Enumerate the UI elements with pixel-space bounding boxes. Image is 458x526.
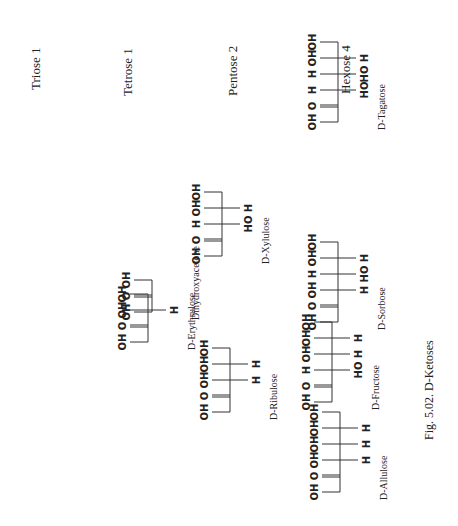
svg-text:OH: OH bbox=[307, 114, 318, 131]
svg-text:H: H bbox=[251, 376, 262, 384]
structure-erythrulose: OHOOHHOHD-Erythrulose bbox=[118, 282, 188, 350]
svg-text:OH: OH bbox=[307, 34, 318, 51]
structure-drawing: OHOOHHOH bbox=[118, 282, 188, 350]
svg-text:H: H bbox=[169, 306, 180, 314]
svg-text:HO: HO bbox=[359, 66, 370, 83]
structure-drawing: OHOOHHOHHOHHOH bbox=[310, 400, 380, 500]
structure-name: D-Xylulose bbox=[260, 217, 271, 264]
structure-drawing: OHOHHOHHOOHHOH bbox=[308, 30, 378, 130]
svg-text:H: H bbox=[251, 360, 262, 368]
svg-text:H: H bbox=[301, 366, 312, 374]
svg-text:OH: OH bbox=[307, 234, 318, 251]
svg-text:O: O bbox=[307, 302, 318, 311]
svg-text:H: H bbox=[361, 456, 372, 464]
svg-text:OH: OH bbox=[191, 200, 202, 217]
svg-text:OH: OH bbox=[199, 404, 210, 421]
svg-text:OH: OH bbox=[309, 484, 320, 501]
svg-text:H: H bbox=[361, 440, 372, 448]
svg-text:OH: OH bbox=[301, 330, 312, 347]
svg-text:H: H bbox=[359, 54, 370, 62]
svg-text:H: H bbox=[359, 254, 370, 262]
heading-pentose: Pentose 2 bbox=[225, 46, 241, 96]
svg-text:O: O bbox=[301, 382, 312, 391]
svg-text:O: O bbox=[191, 236, 202, 245]
svg-text:H: H bbox=[191, 220, 202, 228]
svg-text:HO: HO bbox=[359, 266, 370, 283]
svg-text:OH: OH bbox=[307, 50, 318, 67]
structure-xylulose: OHOHHOOHHOHD-Xylulose bbox=[192, 180, 262, 264]
svg-text:OH: OH bbox=[117, 334, 128, 351]
svg-text:OH: OH bbox=[307, 282, 318, 299]
svg-text:H: H bbox=[353, 334, 364, 342]
structure-name: D-Fructose bbox=[370, 365, 381, 410]
svg-text:O: O bbox=[309, 472, 320, 481]
svg-text:H: H bbox=[307, 86, 318, 94]
svg-text:O: O bbox=[117, 322, 128, 331]
structure-name: D-Sorbose bbox=[376, 287, 387, 330]
svg-text:OH: OH bbox=[191, 184, 202, 201]
svg-text:H: H bbox=[361, 424, 372, 432]
svg-text:OH: OH bbox=[191, 248, 202, 265]
structure-sorbose: OHOOHHHHOOHHOHD-Sorbose bbox=[308, 230, 378, 330]
svg-text:HO: HO bbox=[243, 216, 254, 233]
heading-tetrose: Tetrose 1 bbox=[120, 48, 136, 96]
svg-text:OH: OH bbox=[199, 356, 210, 373]
svg-text:O: O bbox=[199, 392, 210, 401]
svg-text:OH: OH bbox=[307, 314, 318, 331]
svg-text:OH: OH bbox=[117, 286, 128, 303]
structure-name: D-Tagatose bbox=[376, 84, 387, 130]
svg-text:OH: OH bbox=[117, 302, 128, 319]
svg-text:HO: HO bbox=[353, 362, 364, 379]
structure-tagatose: OHOHHOHHOOHHOHD-Tagatose bbox=[308, 30, 378, 130]
structure-name: D-Ribulose bbox=[268, 374, 279, 420]
svg-text:H: H bbox=[359, 286, 370, 294]
structure-drawing: OHOHHOOHHOH bbox=[192, 180, 262, 264]
svg-text:O: O bbox=[307, 102, 318, 111]
svg-text:OH: OH bbox=[301, 394, 312, 411]
svg-text:OH: OH bbox=[307, 250, 318, 267]
svg-text:H: H bbox=[353, 350, 364, 358]
svg-text:OH: OH bbox=[309, 452, 320, 469]
svg-text:OH: OH bbox=[301, 346, 312, 363]
svg-text:H: H bbox=[307, 270, 318, 278]
structure-drawing: OHOOHHHHOOHHOH bbox=[308, 230, 378, 330]
svg-text:OH: OH bbox=[199, 340, 210, 357]
svg-text:HO: HO bbox=[359, 82, 370, 99]
svg-text:OH: OH bbox=[309, 420, 320, 437]
figure-caption: Fig. 5.02. D-Ketoses bbox=[422, 340, 437, 440]
svg-text:H: H bbox=[307, 70, 318, 78]
heading-triose: Triose 1 bbox=[28, 47, 44, 90]
svg-text:OH: OH bbox=[199, 372, 210, 389]
structure-allulose: OHOOHHOHHOHHOHD-Allulose bbox=[310, 400, 380, 500]
figure-page: Triose 1 Tetrose 1 Pentose 2 Hexose 4 Fi… bbox=[0, 0, 458, 526]
svg-text:H: H bbox=[243, 204, 254, 212]
svg-text:OH: OH bbox=[309, 436, 320, 453]
structure-name: D-Erythrulose bbox=[186, 293, 197, 350]
structure-name: D-Allulose bbox=[378, 456, 389, 500]
structure-drawing: OHOOHHOHHOH bbox=[200, 336, 270, 420]
structure-ribulose: OHOOHHOHHOHD-Ribulose bbox=[200, 336, 270, 420]
